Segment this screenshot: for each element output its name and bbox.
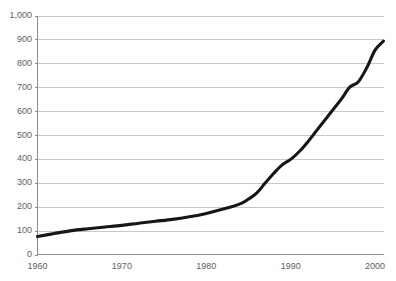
- y-tick-label-700: 700: [2, 82, 32, 92]
- y-tick-label-100: 100: [2, 225, 32, 235]
- y-tick-label-300: 300: [2, 177, 32, 187]
- y-tick-label-1000: 1,000: [2, 10, 32, 20]
- gridlines-group: [38, 17, 385, 232]
- y-tick-label-200: 200: [2, 201, 32, 211]
- x-tick-label-1990: 1990: [271, 261, 311, 271]
- chart-plot-svg: [0, 0, 396, 281]
- x-tick-label-2000: 2000: [355, 261, 395, 271]
- y-tick-label-500: 500: [2, 130, 32, 140]
- line-chart-figure: 01002003004005006007008009001,000 196019…: [0, 0, 396, 281]
- y-tick-label-600: 600: [2, 106, 32, 116]
- x-tick-label-1980: 1980: [186, 261, 226, 271]
- y-tick-label-400: 400: [2, 153, 32, 163]
- y-tick-label-800: 800: [2, 58, 32, 68]
- y-tick-label-900: 900: [2, 34, 32, 44]
- chart-screenshot: · · ·· · · · ··· · · · · ·· ···· · · · ·…: [0, 0, 396, 281]
- x-tick-label-1970: 1970: [102, 261, 142, 271]
- y-tick-label-0: 0: [2, 249, 32, 259]
- x-tick-label-1960: 1960: [18, 261, 58, 271]
